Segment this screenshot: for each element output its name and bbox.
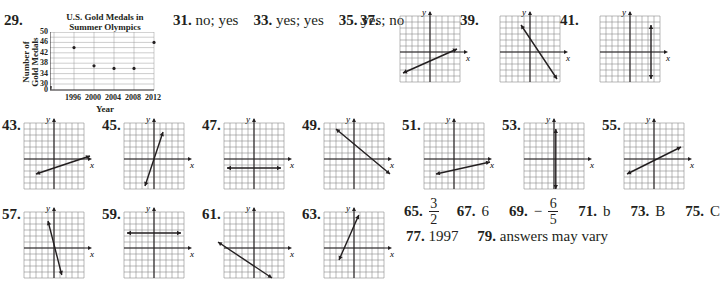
line-graph: yx (24, 123, 98, 193)
problem-number: 55. (602, 117, 621, 134)
scatter-plot (50, 32, 160, 92)
coordinate-graph: yx (324, 212, 398, 282)
line-graph: yx (524, 123, 598, 193)
chart-x-axis-label: Year (96, 104, 114, 114)
coordinate-graph: yx (124, 123, 198, 193)
line-graph: yx (24, 212, 98, 282)
svg-text:x: x (389, 249, 394, 259)
svg-text:x: x (689, 160, 694, 170)
final-answers-row-2: 77. 1997 79. answers may vary (406, 228, 608, 245)
svg-text:x: x (589, 160, 594, 170)
answer-75: C (710, 203, 720, 220)
svg-text:y: y (645, 114, 650, 124)
problem-number: 49. (302, 117, 321, 134)
problem-number: 45. (102, 117, 121, 134)
x-tick-label: 2012 (145, 93, 161, 102)
svg-text:x: x (565, 53, 570, 63)
coordinate-graph: yx (324, 123, 398, 193)
svg-text:x: x (389, 160, 394, 170)
svg-text:y: y (45, 203, 50, 213)
x-tick-label: 2008 (125, 93, 141, 102)
y-tick-label: 30 (34, 79, 48, 88)
problem-number: 43. (2, 117, 21, 134)
problem-number: 63. (302, 206, 321, 223)
problem-number: 39. (460, 12, 479, 29)
line-graph: yx (600, 16, 674, 86)
svg-text:x: x (289, 160, 294, 170)
line-graph: yx (624, 123, 698, 193)
svg-text:x: x (665, 53, 670, 63)
svg-text:y: y (521, 7, 526, 17)
svg-text:x: x (189, 249, 194, 259)
answer-73: B (655, 203, 665, 220)
svg-text:x: x (465, 53, 470, 63)
coordinate-graph: yx (600, 16, 674, 86)
problem-number: 59. (102, 206, 121, 223)
x-tick-label: 2000 (85, 93, 101, 102)
coordinate-graph: yx (624, 123, 698, 193)
problem-number: 29. (4, 12, 23, 29)
svg-text:x: x (89, 160, 94, 170)
x-tick-label: 2004 (105, 93, 121, 102)
fraction-69: 6 5 (548, 196, 558, 227)
coordinate-graph: yx (24, 123, 98, 193)
svg-text:x: x (289, 249, 294, 259)
answer-67: 6 (482, 203, 490, 220)
problem-number: 53. (502, 117, 521, 134)
fraction-65: 3 2 (429, 196, 439, 227)
problem-number: 37. (360, 12, 379, 29)
line-graph: yx (324, 212, 398, 282)
line-graph: yx (124, 123, 198, 193)
svg-text:y: y (145, 114, 150, 124)
line-graph: yx (224, 123, 298, 193)
coordinate-graph: yx (224, 212, 298, 282)
answer-33: yes; yes (276, 12, 324, 28)
line-graph: yx (124, 212, 198, 282)
svg-text:y: y (621, 7, 626, 17)
problem-number: 41. (560, 12, 579, 29)
svg-text:x: x (89, 249, 94, 259)
y-tick-label: 50 (34, 27, 48, 36)
answer-31: no; yes (196, 12, 239, 28)
svg-text:y: y (345, 203, 350, 213)
svg-text:y: y (545, 114, 550, 124)
coordinate-graph: yx (224, 123, 298, 193)
line-graph: yx (424, 123, 498, 193)
coordinate-graph: yx (24, 212, 98, 282)
problem-number: 61. (202, 206, 221, 223)
svg-text:y: y (421, 7, 426, 17)
coordinate-graph: yx (124, 212, 198, 282)
y-tick-label: 34 (34, 69, 48, 78)
y-tick-label: 38 (34, 58, 48, 67)
answer-71: b (603, 203, 611, 220)
problem-number: 57. (2, 206, 21, 223)
problem-number: 51. (402, 117, 421, 134)
y-tick-label: 46 (34, 37, 48, 46)
line-graph: yx (224, 212, 298, 282)
svg-text:y: y (245, 203, 250, 213)
final-answers-row-1: 65. 3 2 67. 6 69. − 6 5 71. b 73. B 75. … (404, 196, 720, 227)
x-tick-label: 1996 (65, 93, 81, 102)
answer-77: 1997 (429, 228, 459, 244)
svg-text:y: y (245, 114, 250, 124)
svg-text:y: y (145, 203, 150, 213)
coordinate-graph: yx (424, 123, 498, 193)
svg-text:y: y (45, 114, 50, 124)
answer-79: answers may vary (500, 228, 608, 244)
svg-text:y: y (445, 114, 450, 124)
line-graph: yx (324, 123, 398, 193)
coordinate-graph: yx (524, 123, 598, 193)
svg-text:y: y (345, 114, 350, 124)
chart-title: U.S. Gold Medals in Summer Olympics (50, 12, 160, 32)
problem-number: 47. (202, 117, 221, 134)
svg-text:x: x (189, 160, 194, 170)
y-tick-label: 42 (34, 48, 48, 57)
